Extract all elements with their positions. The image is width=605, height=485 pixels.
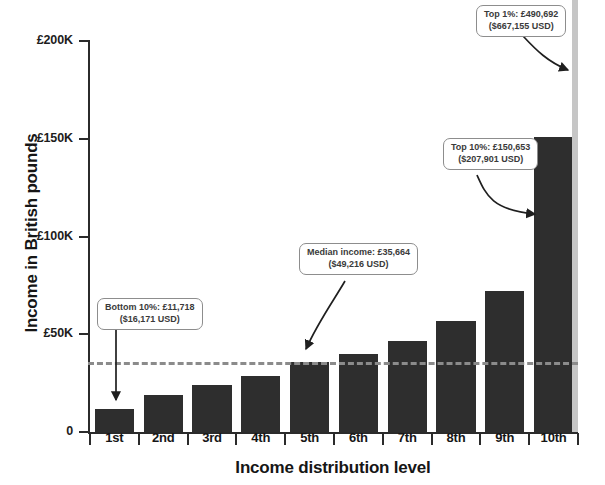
- top-1-percent-bar: [572, 0, 578, 432]
- x-axis-tick-label-10th: 10th: [529, 430, 578, 445]
- top-1-callout: Top 1%: £490,692 ($667,155 USD): [476, 5, 566, 37]
- x-axis-tick-label-6th: 6th: [334, 430, 383, 445]
- bar-8th: [436, 321, 475, 432]
- bar-4th: [241, 376, 280, 432]
- bottom-10-callout-line1: Bottom 10%: £11,718: [105, 302, 195, 314]
- bottom-10-callout: Bottom 10%: £11,718 ($16,171 USD): [97, 298, 203, 330]
- top-1-arrow: [523, 36, 568, 70]
- x-axis-tick-label-9th: 9th: [480, 430, 529, 445]
- median-reference-line: [88, 362, 578, 365]
- bar-1st: [95, 409, 134, 432]
- bar-10th: [534, 137, 573, 432]
- y-axis-tick-label: £50K: [0, 326, 73, 340]
- top-1-callout-line1: Top 1%: £490,692: [484, 9, 558, 21]
- x-axis-tick-label-8th: 8th: [432, 430, 481, 445]
- x-axis-tick-label-3rd: 3rd: [188, 430, 237, 445]
- median-callout-line1: Median income: £35,664: [307, 247, 410, 259]
- x-axis-tick-label-7th: 7th: [383, 430, 432, 445]
- top-1-callout-line2: ($667,155 USD): [484, 21, 558, 33]
- bottom-10-callout-line2: ($16,171 USD): [105, 314, 195, 326]
- bar-6th: [339, 354, 378, 432]
- median-callout: Median income: £35,664 ($49,216 USD): [299, 243, 418, 275]
- x-axis-tick-label-2nd: 2nd: [139, 430, 188, 445]
- top-10-callout-line2: ($207,901 USD): [451, 154, 530, 166]
- top-10-callout: Top 10%: £150,653 ($207,901 USD): [443, 138, 538, 170]
- x-axis-tick-label-5th: 5th: [285, 430, 334, 445]
- top-10-arrow: [477, 175, 535, 214]
- y-axis-line: [88, 41, 90, 433]
- bar-7th: [388, 341, 427, 432]
- y-axis-tick-label: £150K: [0, 131, 73, 145]
- top-10-callout-line1: Top 10%: £150,653: [451, 142, 530, 154]
- y-axis-tick-label: 0: [0, 424, 73, 438]
- x-axis-tick-label-1st: 1st: [90, 430, 139, 445]
- bar-3rd: [192, 385, 231, 432]
- y-axis-tick-label: £100K: [0, 229, 73, 243]
- bar-2nd: [144, 395, 183, 432]
- x-axis-tick-label-4th: 4th: [236, 430, 285, 445]
- median-arrow: [306, 281, 345, 349]
- bar-5th: [290, 362, 329, 432]
- y-axis-tick-label: £200K: [0, 33, 73, 47]
- median-callout-line2: ($49,216 USD): [307, 259, 410, 271]
- x-axis-title: Income distribution level: [88, 458, 578, 478]
- income-distribution-bar-chart: Income in British pounds 0£50K£100K£150K…: [0, 0, 605, 485]
